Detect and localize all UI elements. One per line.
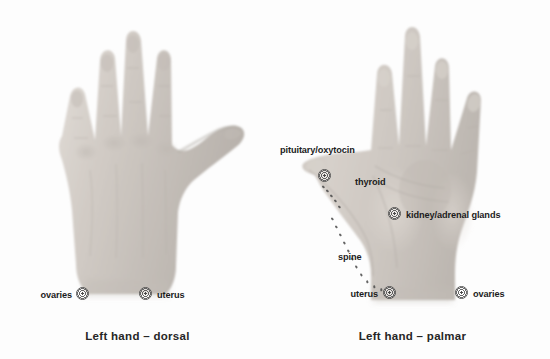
marker-pituitary-oxytocin[interactable] xyxy=(318,169,331,182)
label-spine: spine xyxy=(338,253,362,262)
label-uterus-dorsal: uterus xyxy=(157,291,184,300)
marker-kidney-adrenal-glands[interactable] xyxy=(388,207,401,220)
palmar-hand-illustration xyxy=(275,0,550,320)
label-uterus-palmar: uterus xyxy=(330,290,378,299)
caption-palmar: Left hand – palmar xyxy=(275,330,550,342)
reflexology-hand-figure: ovaries uterus Left hand – dorsal xyxy=(0,0,550,359)
panel-left-hand-palmar: pituitary/oxytocin thyroid kidney/adrena… xyxy=(275,0,550,359)
dorsal-hand-image: ovaries uterus xyxy=(0,0,275,320)
caption-dorsal: Left hand – dorsal xyxy=(0,330,275,342)
marker-uterus-palmar[interactable] xyxy=(383,286,396,299)
label-thyroid: thyroid xyxy=(355,178,385,187)
dorsal-hand-illustration xyxy=(0,0,275,320)
marker-ovaries-dorsal[interactable] xyxy=(76,287,89,300)
label-ovaries-dorsal: ovaries xyxy=(16,291,72,300)
marker-uterus-dorsal[interactable] xyxy=(139,287,152,300)
palmar-hand-image: pituitary/oxytocin thyroid kidney/adrena… xyxy=(275,0,550,320)
label-ovaries-palmar: ovaries xyxy=(473,290,504,299)
marker-ovaries-palmar[interactable] xyxy=(455,286,468,299)
panel-left-hand-dorsal: ovaries uterus Left hand – dorsal xyxy=(0,0,275,359)
label-pituitary-oxytocin: pituitary/oxytocin xyxy=(280,146,355,155)
label-kidney-adrenal-glands: kidney/adrenal glands xyxy=(406,211,500,220)
